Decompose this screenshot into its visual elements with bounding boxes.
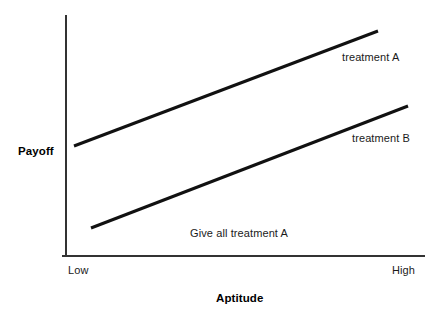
series-label-treatment-b: treatment B xyxy=(352,133,410,144)
series-label-treatment-a: treatment A xyxy=(342,52,399,63)
series-line-treatment-b xyxy=(91,106,408,228)
x-tick-label-high: High xyxy=(392,265,415,276)
y-axis-title: Payoff xyxy=(18,146,54,158)
x-axis-title: Aptitude xyxy=(216,293,263,305)
chart-annotation-give-all-treatment-a: Give all treatment A xyxy=(190,228,288,239)
chart-plot-area xyxy=(0,0,440,321)
chart-figure: Payoff Aptitude Low High treatment A tre… xyxy=(0,0,440,321)
series-line-treatment-a xyxy=(74,31,378,146)
x-tick-label-low: Low xyxy=(68,265,88,276)
